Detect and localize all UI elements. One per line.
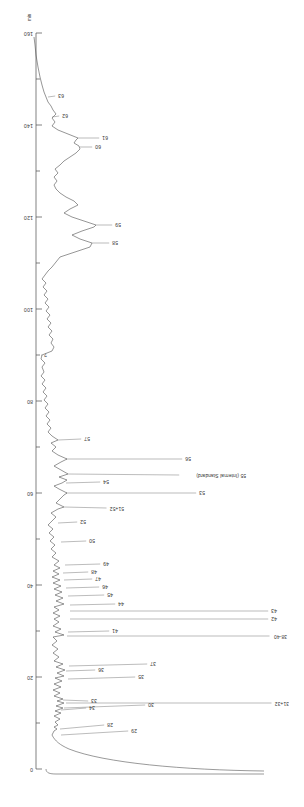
axis-tick-160: 160 <box>24 31 33 37</box>
peak-label: 37 <box>150 661 156 667</box>
peak-label: 50 <box>89 538 95 544</box>
axis-tick-80: 80 <box>27 399 33 405</box>
peak-label: 57 <box>84 436 90 442</box>
peak-label: 31+32 <box>275 701 289 706</box>
peak-leader-line <box>70 604 115 605</box>
peak-label: 34 <box>89 705 95 711</box>
peak-label: 29 <box>131 728 137 734</box>
solvent-front <box>46 769 264 774</box>
peak-leader-line <box>64 507 107 508</box>
peak-label: 49 <box>103 561 109 567</box>
axis-tick-20: 20 <box>27 675 33 681</box>
axis-unit-label: min <box>27 14 32 21</box>
peak-label: 56 <box>185 456 191 462</box>
peak-label: 60 <box>95 144 101 150</box>
axis-tick-60: 60 <box>27 491 33 497</box>
axis-tick-140: 140 <box>24 123 33 129</box>
peak-leader-line <box>69 664 147 666</box>
peak-label: 38-40 <box>274 634 287 639</box>
peak-leader-line <box>58 522 77 523</box>
peak-leader-line <box>68 677 135 679</box>
peak-leader-line <box>60 725 104 729</box>
axis-tick-100: 100 <box>24 307 33 313</box>
peak-label: 52 <box>80 519 86 525</box>
peak-label: 36 <box>98 667 104 673</box>
axis-tick-40: 40 <box>27 583 33 589</box>
peak-label: 41 <box>112 628 118 634</box>
peak-leader-line <box>68 631 109 632</box>
rotated-figure-canvas: 0 20 40 60 80 100 120 140 160 min 282930… <box>0 0 304 807</box>
peak-label: 33 <box>91 698 97 704</box>
peak-leader-line <box>65 564 100 565</box>
peak-label: 59 <box>115 222 121 228</box>
peak-label: 53 <box>199 490 205 496</box>
axis-tick-0: 0 <box>30 767 33 773</box>
peak-leader-line <box>68 595 104 596</box>
peak-label: 28 <box>107 722 113 728</box>
peak-leader-line <box>68 474 179 475</box>
peak-leader-lines <box>41 96 271 735</box>
peak-label: 30 <box>148 702 154 708</box>
peak-leader-line <box>64 579 92 580</box>
peak-label: 63 <box>58 93 64 99</box>
peak-label: 43 <box>271 608 277 614</box>
peak-label: 54 <box>103 479 109 485</box>
peak-label: 62 <box>62 113 68 119</box>
peak-leader-line <box>63 700 88 701</box>
peak-label: 51+52 <box>110 506 124 511</box>
peak-leader-line <box>48 96 55 97</box>
peak-label: 44 <box>118 601 124 607</box>
chromatogram-figure: 0 20 40 60 80 100 120 140 160 min 282930… <box>0 0 304 807</box>
peak-label: ? <box>44 352 47 358</box>
chromatogram-trace-svg <box>0 0 304 807</box>
peak-label: 48 <box>91 569 97 575</box>
peak-label: 58 <box>112 240 118 246</box>
peak-label: 46 <box>102 584 108 590</box>
peak-label: 47 <box>95 576 101 582</box>
peak-leader-line <box>58 439 81 440</box>
solvent-front-return <box>52 735 264 771</box>
peak-label: 61 <box>102 135 108 141</box>
peak-label: 42 <box>271 616 277 622</box>
peak-leader-line <box>66 482 100 483</box>
peak-label: 45 <box>107 592 113 598</box>
peak-leader-line <box>66 587 99 588</box>
axis-tick-120: 120 <box>24 215 33 221</box>
peak-label: 35 <box>138 674 144 680</box>
time-axis <box>36 33 42 769</box>
peak-leader-line <box>61 731 128 735</box>
peak-leader-line <box>66 670 95 671</box>
peak-leader-line <box>61 708 86 710</box>
peak-leader-line <box>61 541 86 542</box>
trace-path <box>34 37 96 735</box>
peak-leader-line <box>63 572 88 573</box>
peak-leader-line <box>64 705 145 708</box>
peak-label: 55 (Internal Standard) <box>196 473 246 478</box>
